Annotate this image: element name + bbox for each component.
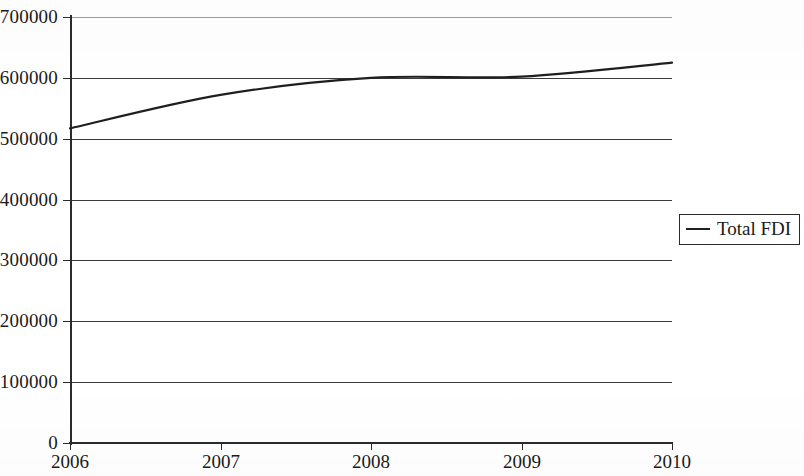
- y-axis-tick-label: 200000: [0, 311, 58, 330]
- x-axis-tick-mark: [70, 443, 71, 450]
- y-axis-tick-mark: [63, 78, 71, 79]
- x-axis-tick-label: 2009: [503, 451, 541, 472]
- y-axis-tick-mark: [63, 382, 71, 383]
- x-axis-tick-label: 2007: [202, 451, 240, 472]
- y-axis-tick-label: 600000: [0, 68, 58, 87]
- y-axis-tick-mark: [63, 321, 71, 322]
- y-axis-tick-label: 400000: [0, 190, 58, 209]
- y-axis-tick-label: 0: [48, 433, 58, 452]
- y-axis-tick-mark: [63, 200, 71, 201]
- x-axis-tick-mark: [221, 443, 222, 450]
- fdi-line-chart-figure: 0100000200000300000400000500000600000700…: [0, 0, 804, 476]
- gridline: [70, 139, 672, 140]
- plot-area: [70, 17, 672, 443]
- y-axis-tick-mark: [63, 17, 71, 18]
- chart-legend: Total FDI: [679, 214, 800, 245]
- gridline: [70, 260, 672, 261]
- x-axis-tick-label: 2006: [51, 451, 89, 472]
- y-axis-tick-mark: [63, 139, 71, 140]
- x-axis-tick-mark: [371, 443, 372, 450]
- legend-label-total-fdi: Total FDI: [717, 219, 791, 239]
- x-axis-tick-label: 2008: [352, 451, 390, 472]
- y-axis-tick-label: 500000: [0, 129, 58, 148]
- gridline: [70, 321, 672, 322]
- gridline: [70, 200, 672, 201]
- gridline: [70, 382, 672, 383]
- x-axis-tick-mark: [522, 443, 523, 450]
- x-axis-tick-mark: [672, 443, 673, 450]
- y-axis-line: [70, 15, 72, 445]
- x-axis-tick-label: 2010: [653, 451, 691, 472]
- legend-line-marker-total-fdi: [686, 228, 710, 230]
- gridline: [70, 78, 672, 79]
- gridline: [70, 17, 672, 18]
- y-axis-tick-mark: [63, 260, 71, 261]
- y-axis-tick-label: 300000: [0, 250, 58, 269]
- y-axis-tick-label: 700000: [0, 7, 58, 26]
- y-axis-tick-label: 100000: [0, 372, 58, 391]
